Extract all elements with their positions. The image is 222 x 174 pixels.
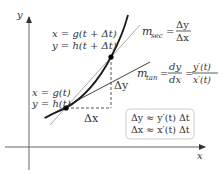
- tangent-slope-formula: m tan = dy dx = y′(t) x′(t): [137, 61, 218, 85]
- approx-dx-line: Δx ≈ x′(t) Δt: [131, 124, 190, 135]
- svg-text:Δy: Δy: [176, 19, 189, 30]
- lower-point-y-eq: y = h(t): [31, 98, 71, 109]
- upper-point-y-eq: y = h(t + Δt): [51, 40, 117, 51]
- svg-text:Δx: Δx: [176, 32, 189, 43]
- svg-text:sec: sec: [151, 32, 163, 40]
- delta-x-label: Δx: [84, 112, 99, 125]
- svg-text:dy: dy: [169, 61, 181, 72]
- svg-text:x′(t): x′(t): [193, 75, 211, 85]
- svg-text:=: =: [160, 68, 168, 79]
- approx-dy-line: Δy ≈ y′(t) Δt: [131, 112, 190, 123]
- point-upper: [108, 54, 113, 59]
- x-axis-label: x: [197, 150, 203, 161]
- svg-text:=: =: [166, 26, 174, 37]
- y-axis-label: y: [16, 9, 23, 20]
- parametric-tangent-diagram: x y x = g(t + Δt) y = h(t + Δt) x = g(t)…: [0, 0, 222, 174]
- lower-point-x-eq: x = g(t): [32, 87, 71, 98]
- svg-text:tan: tan: [146, 74, 158, 82]
- svg-text:y′(t): y′(t): [192, 62, 211, 72]
- approximation-box: Δy ≈ y′(t) Δt Δx ≈ x′(t) Δt: [126, 109, 194, 139]
- secant-slope-formula: m sec = Δy Δx: [142, 19, 191, 43]
- svg-text:dx: dx: [169, 74, 181, 85]
- upper-point-x-eq: x = g(t + Δt): [52, 28, 117, 39]
- delta-y-label: Δy: [114, 79, 129, 92]
